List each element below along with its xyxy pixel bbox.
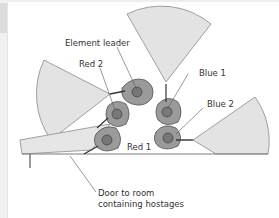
room-entry-diagram: Element leader Red 2 Blue 1 Blue 2 Red 1… bbox=[0, 0, 279, 218]
label-blue1: Blue 1 bbox=[199, 68, 226, 78]
label-door-line2: containing hostages bbox=[98, 199, 185, 209]
label-red2: Red 2 bbox=[79, 59, 103, 69]
label-blue2: Blue 2 bbox=[207, 99, 234, 109]
label-element-leader: Element leader bbox=[65, 38, 130, 48]
figure-red2 bbox=[97, 101, 129, 128]
figure-blue2 bbox=[154, 126, 193, 149]
label-door-line1: Door to room bbox=[98, 188, 154, 198]
figure-blue1 bbox=[156, 84, 181, 125]
label-red1: Red 1 bbox=[127, 142, 151, 152]
